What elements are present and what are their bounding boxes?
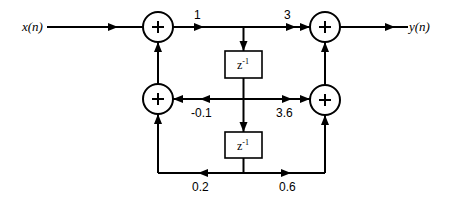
signal-flow-diagram: x(n) y(n) 1 3 -0.1 3.6 0.2 0.6 z-1 z-1 <box>0 0 455 202</box>
gain-b1-label: 3.6 <box>276 106 293 120</box>
adder-top-left <box>143 12 173 42</box>
gain-a2-label: 0.2 <box>192 180 209 194</box>
adder-bl-up-arrow <box>154 114 162 124</box>
adder-top-right <box>310 12 340 42</box>
adder-br-in-arrow <box>300 95 310 103</box>
gain-36-arrow <box>282 95 292 103</box>
gain-3-arrow <box>286 23 296 31</box>
delay1-in-arrow <box>240 41 248 51</box>
adder-bottom-right <box>310 85 340 115</box>
adder-bl-in-arrow <box>173 95 183 103</box>
output-arrow <box>385 23 395 31</box>
adder-bottom-left <box>143 84 173 114</box>
gain-02-arrow <box>198 169 208 177</box>
input-arrow <box>108 23 118 31</box>
delay2-in-arrow <box>240 122 248 132</box>
gain-1-arrow <box>194 23 204 31</box>
input-label: x(n) <box>21 19 43 34</box>
gain-b0-out-label: 3 <box>284 8 291 22</box>
gain-b2-label: 0.6 <box>279 180 296 194</box>
adder-br-up-arrow <box>321 115 329 125</box>
gain-06-arrow <box>281 169 291 177</box>
output-label: y(n) <box>407 19 430 34</box>
gain-neg01-arrow <box>200 95 210 103</box>
adder-tr-in-arrow <box>300 23 310 31</box>
gain-b0-label: 1 <box>194 8 201 22</box>
adder-tr-up-arrow <box>321 42 329 52</box>
adder-tl-up-arrow <box>154 42 162 52</box>
gain-a1-label: -0.1 <box>191 106 212 120</box>
